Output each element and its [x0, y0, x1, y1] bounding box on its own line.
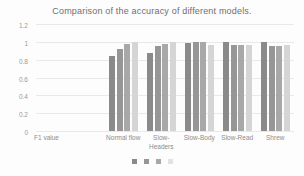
bar[interactable]: [238, 45, 244, 131]
bar[interactable]: [269, 46, 275, 131]
legend-item[interactable]: [132, 159, 137, 164]
bar-group: [109, 25, 138, 132]
y-axis-tick-label: 0.8: [19, 57, 28, 64]
x-axis-tick-label: Slow-Read: [219, 134, 255, 143]
legend-swatch: [132, 159, 137, 164]
bar[interactable]: [162, 44, 168, 131]
bar[interactable]: [147, 53, 153, 131]
legend-item[interactable]: [144, 159, 149, 164]
y-axis: 1.210.80.60.40.20: [0, 25, 33, 132]
y-axis-tick-label: 0.2: [19, 111, 28, 118]
bar[interactable]: [284, 45, 290, 131]
chart-title: Comparison of the accuracy of different …: [0, 6, 304, 16]
bar-group: [185, 25, 214, 132]
x-axis-tick-label: Normal flow: [105, 134, 141, 143]
bar[interactable]: [185, 43, 191, 131]
y-axis-tick-label: 0.4: [19, 93, 28, 100]
bar[interactable]: [200, 42, 206, 131]
legend-swatch: [144, 159, 149, 164]
x-axis-tick-label: Slow-Body: [181, 134, 217, 143]
bar[interactable]: [223, 42, 229, 131]
bar[interactable]: [208, 45, 214, 131]
x-axis-title: F1 value: [34, 134, 59, 141]
legend-item[interactable]: [156, 159, 161, 164]
chart-container: Comparison of the accuracy of different …: [0, 0, 304, 176]
bar[interactable]: [117, 49, 123, 131]
bar[interactable]: [124, 44, 130, 131]
bar-group: [223, 25, 252, 132]
bar-group: [147, 25, 176, 132]
legend-swatch: [156, 159, 161, 164]
bar[interactable]: [231, 45, 237, 131]
bar[interactable]: [246, 45, 252, 131]
bar[interactable]: [170, 42, 176, 131]
bar-group: [261, 25, 290, 132]
x-axis-tick-label: Shrew: [257, 134, 293, 143]
plot-area: [36, 25, 294, 132]
bar[interactable]: [155, 46, 161, 131]
chart-legend: [0, 159, 304, 164]
y-axis-tick-label: 1: [24, 39, 28, 46]
bar[interactable]: [276, 46, 282, 131]
bar[interactable]: [109, 56, 115, 131]
y-axis-tick-label: 1.2: [19, 22, 28, 29]
legend-swatch: [168, 159, 173, 164]
bar[interactable]: [193, 42, 199, 131]
y-axis-tick-label: 0.6: [19, 75, 28, 82]
x-axis: F1 value Normal flowSlow-HeadersSlow-Bod…: [0, 134, 304, 160]
legend-item[interactable]: [168, 159, 173, 164]
x-axis-tick-label: Slow-Headers: [143, 134, 179, 151]
bar[interactable]: [261, 42, 267, 131]
bar[interactable]: [132, 42, 138, 131]
